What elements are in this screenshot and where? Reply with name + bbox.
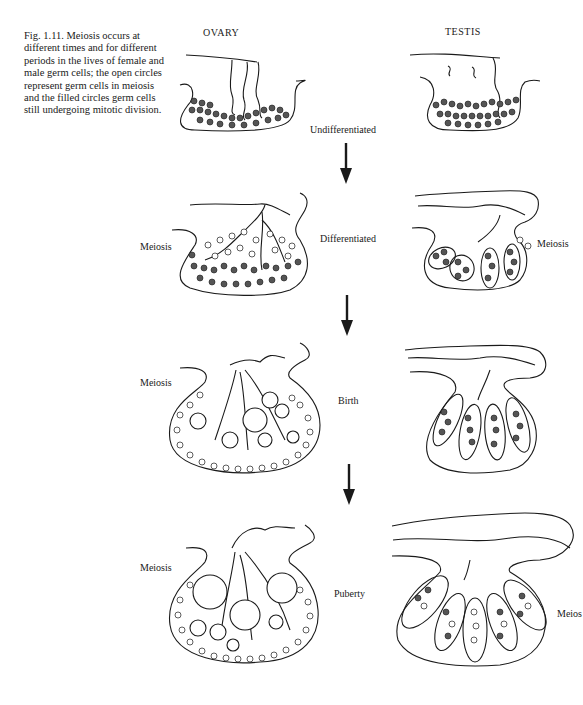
- ovary-undifferentiated: [180, 55, 305, 131]
- testis-birth: [405, 345, 546, 473]
- arrow-down-icon: [343, 464, 355, 505]
- testis-differentiated: [412, 191, 538, 290]
- ovary-differentiated: [172, 193, 307, 295]
- testis-puberty: [392, 513, 573, 666]
- meiosis-diagram: [0, 0, 583, 705]
- arrow-down-icon: [340, 143, 352, 184]
- testis-undifferentiated: [410, 54, 540, 131]
- ovary-birth: [169, 343, 320, 473]
- ovary-puberty: [169, 525, 318, 663]
- arrow-down-icon: [341, 295, 353, 336]
